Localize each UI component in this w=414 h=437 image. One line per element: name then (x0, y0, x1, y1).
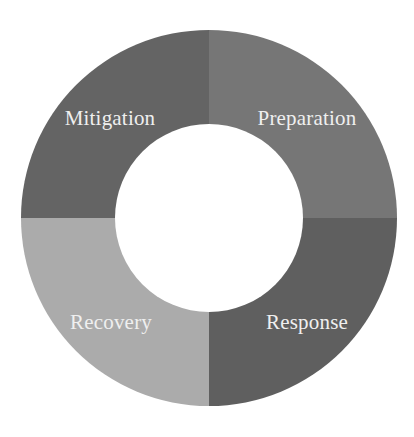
donut-hole (115, 124, 303, 312)
disaster-management-cycle-diagram: Mitigation Preparation Response Recovery (0, 0, 414, 437)
segment-label-recovery: Recovery (70, 310, 152, 334)
segment-label-preparation: Preparation (258, 106, 357, 130)
segment-label-response: Response (266, 310, 348, 334)
segment-label-mitigation: Mitigation (65, 106, 156, 130)
